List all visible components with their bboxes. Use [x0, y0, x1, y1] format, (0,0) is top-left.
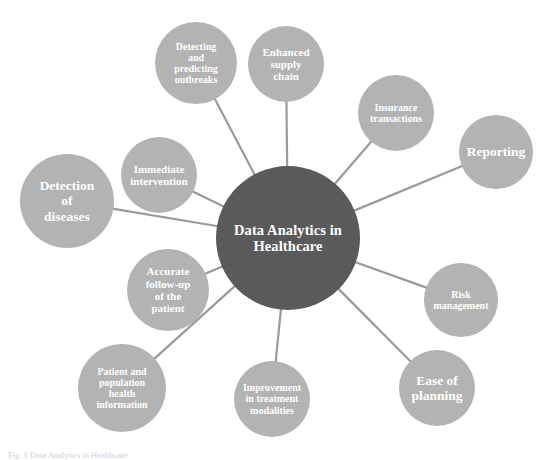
- node-circle-immediate-intervention[interactable]: [121, 137, 197, 213]
- node-circle-detecting-predicting-outbreaks[interactable]: [155, 22, 237, 104]
- connector-line-risk-management: [355, 262, 427, 288]
- hub-circle[interactable]: [216, 166, 360, 310]
- node-circle-insurance-transactions[interactable]: [358, 75, 434, 151]
- connector-line-improvement-in-treatment-modalities: [276, 309, 281, 363]
- connector-line-accurate-follow-up-of-the-patient: [205, 266, 223, 274]
- node-circle-detection-of-diseases[interactable]: [20, 154, 114, 248]
- node-circle-reporting[interactable]: [459, 115, 533, 189]
- connector-line-insurance-transactions: [334, 141, 371, 184]
- node-circle-enhanced-supply-chain[interactable]: [248, 26, 324, 102]
- node-circle-ease-of-planning[interactable]: [399, 350, 475, 426]
- figure-caption: Fig. 1 Data Analytics in Healthcare: [8, 450, 128, 460]
- connector-line-enhanced-supply-chain: [286, 101, 287, 167]
- connector-line-ease-of-planning: [338, 288, 411, 361]
- connector-line-reporting: [354, 166, 463, 211]
- hub-circle-group: [216, 166, 360, 310]
- node-circle-risk-management[interactable]: [424, 263, 498, 337]
- node-circle-improvement-in-treatment-modalities[interactable]: [234, 361, 310, 437]
- connector-line-immediate-intervention: [192, 191, 224, 207]
- node-circle-patient-population-health-information[interactable]: [78, 344, 166, 432]
- connector-line-detecting-predicting-outbreaks: [215, 98, 255, 175]
- node-circle-accurate-follow-up-of-the-patient[interactable]: [127, 249, 209, 331]
